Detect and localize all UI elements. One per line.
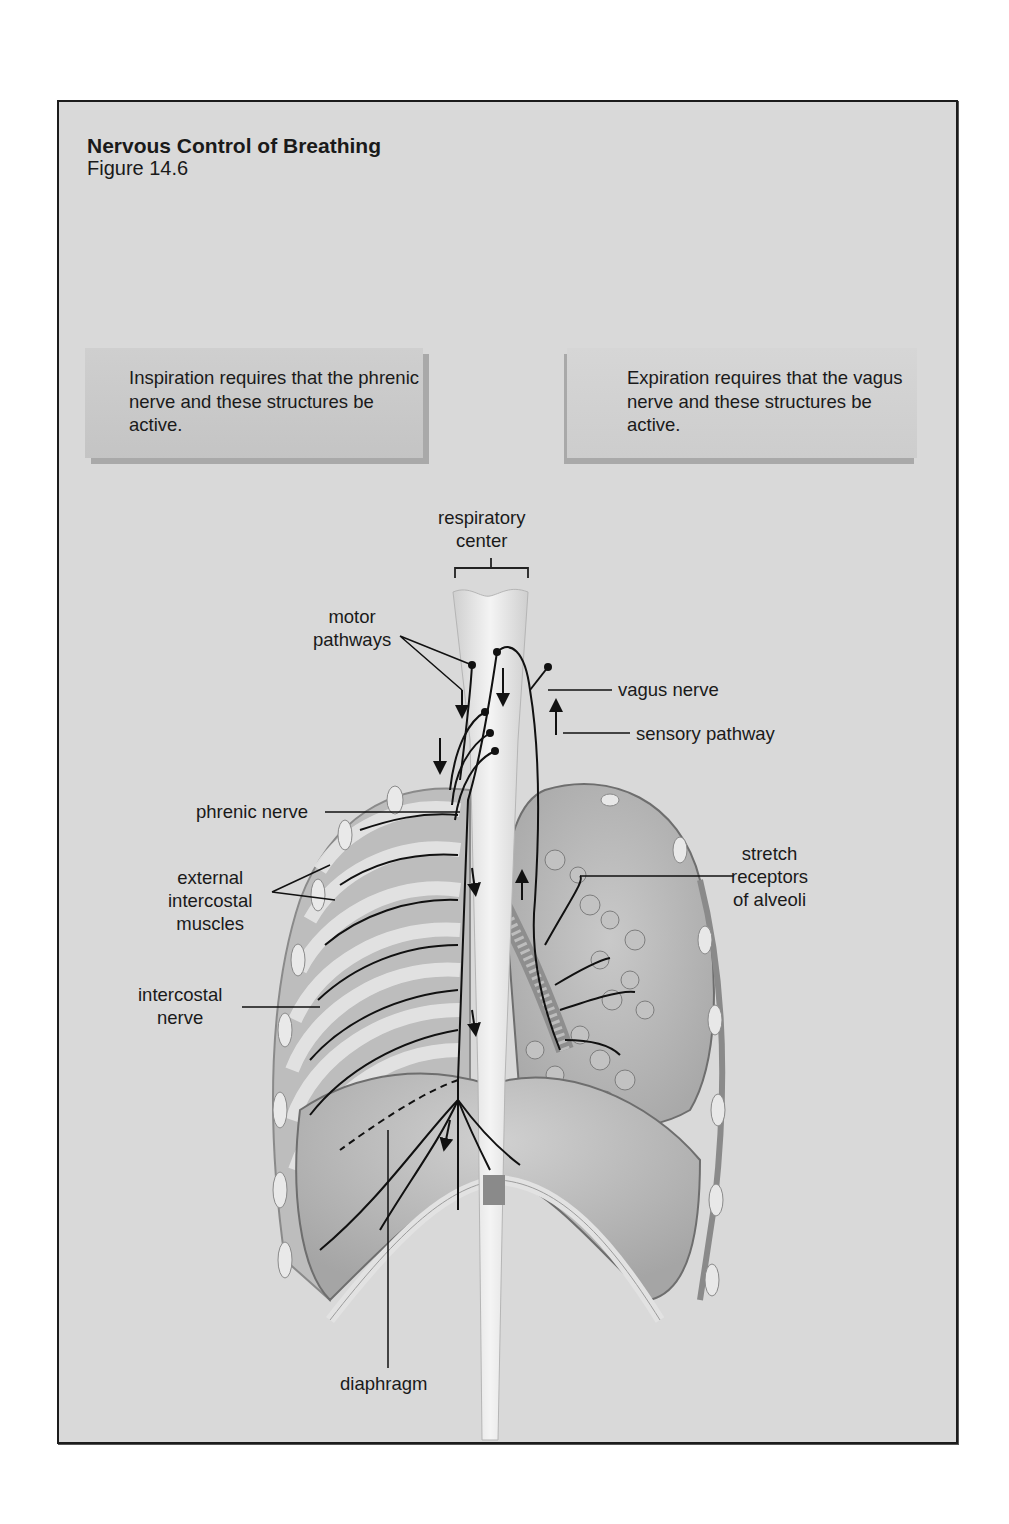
label-phrenic-nerve: phrenic nerve xyxy=(196,800,308,823)
label-motor-pathways-line1: motor xyxy=(313,605,391,628)
thorax-illustration xyxy=(0,0,1009,1524)
label-eim-line1: external xyxy=(168,866,252,889)
label-respiratory-center-line1: respiratory xyxy=(438,506,525,529)
label-intercostal-nerve-line1: intercostal xyxy=(138,983,222,1006)
label-stretch-receptors-line2: receptors xyxy=(731,865,808,888)
label-sensory-pathway: sensory pathway xyxy=(636,722,775,745)
label-intercostal-nerve-line2: nerve xyxy=(138,1006,222,1029)
label-stretch-receptors-line3: of alveoli xyxy=(731,888,808,911)
label-intercostal-nerve: intercostal nerve xyxy=(138,983,222,1029)
label-motor-pathways-line2: pathways xyxy=(313,628,391,651)
respiratory-center-bracket xyxy=(455,558,528,578)
label-external-intercostal-muscles: external intercostal muscles xyxy=(168,866,252,935)
label-eim-line3: muscles xyxy=(168,912,252,935)
label-motor-pathways: motor pathways xyxy=(313,605,391,651)
label-respiratory-center-line2: center xyxy=(438,529,525,552)
label-eim-line2: intercostal xyxy=(168,889,252,912)
label-stretch-receptors-line1: stretch xyxy=(731,842,808,865)
label-diaphragm: diaphragm xyxy=(340,1372,427,1395)
label-respiratory-center: respiratory center xyxy=(438,506,525,552)
label-stretch-receptors: stretch receptors of alveoli xyxy=(731,842,808,911)
label-vagus-nerve: vagus nerve xyxy=(618,678,719,701)
